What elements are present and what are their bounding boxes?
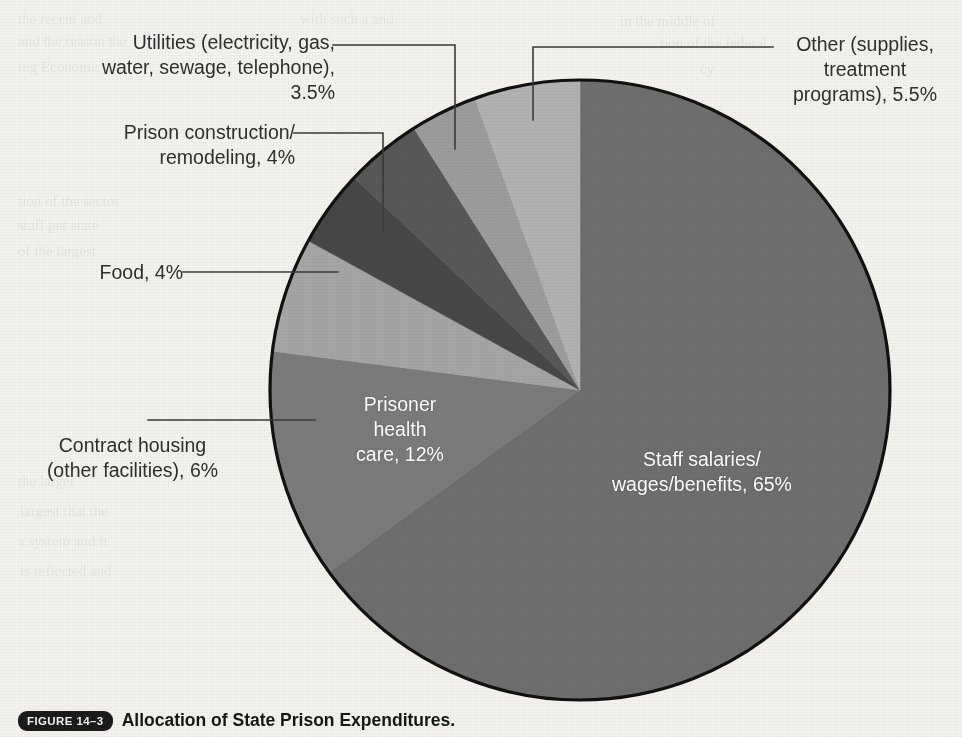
figure-number-badge: FIGURE 14–3 bbox=[18, 711, 113, 731]
figure-pie-chart: Utilities (electricity, gas, water, sewa… bbox=[0, 0, 962, 737]
figure-caption: FIGURE 14–3 Allocation of State Prison E… bbox=[18, 710, 455, 731]
callout-label-contract-housing: Contract housing (other facilities), 6% bbox=[10, 433, 255, 483]
callout-label-prison-construction: Prison construction/ remodeling, 4% bbox=[40, 120, 295, 170]
figure-caption-text: Allocation of State Prison Expenditures. bbox=[122, 710, 456, 731]
pie-chart-svg bbox=[0, 0, 962, 737]
slice-label-prisoner-health-care: Prisoner health care, 12% bbox=[305, 392, 495, 467]
callout-label-utilities: Utilities (electricity, gas, water, sewa… bbox=[60, 30, 335, 105]
pie-slices-group bbox=[270, 80, 890, 700]
slice-label-staff-salaries: Staff salaries/ wages/benefits, 65% bbox=[577, 447, 827, 497]
callout-label-other: Other (supplies, treatment programs), 5.… bbox=[775, 32, 955, 107]
callout-label-food: Food, 4% bbox=[40, 260, 183, 285]
